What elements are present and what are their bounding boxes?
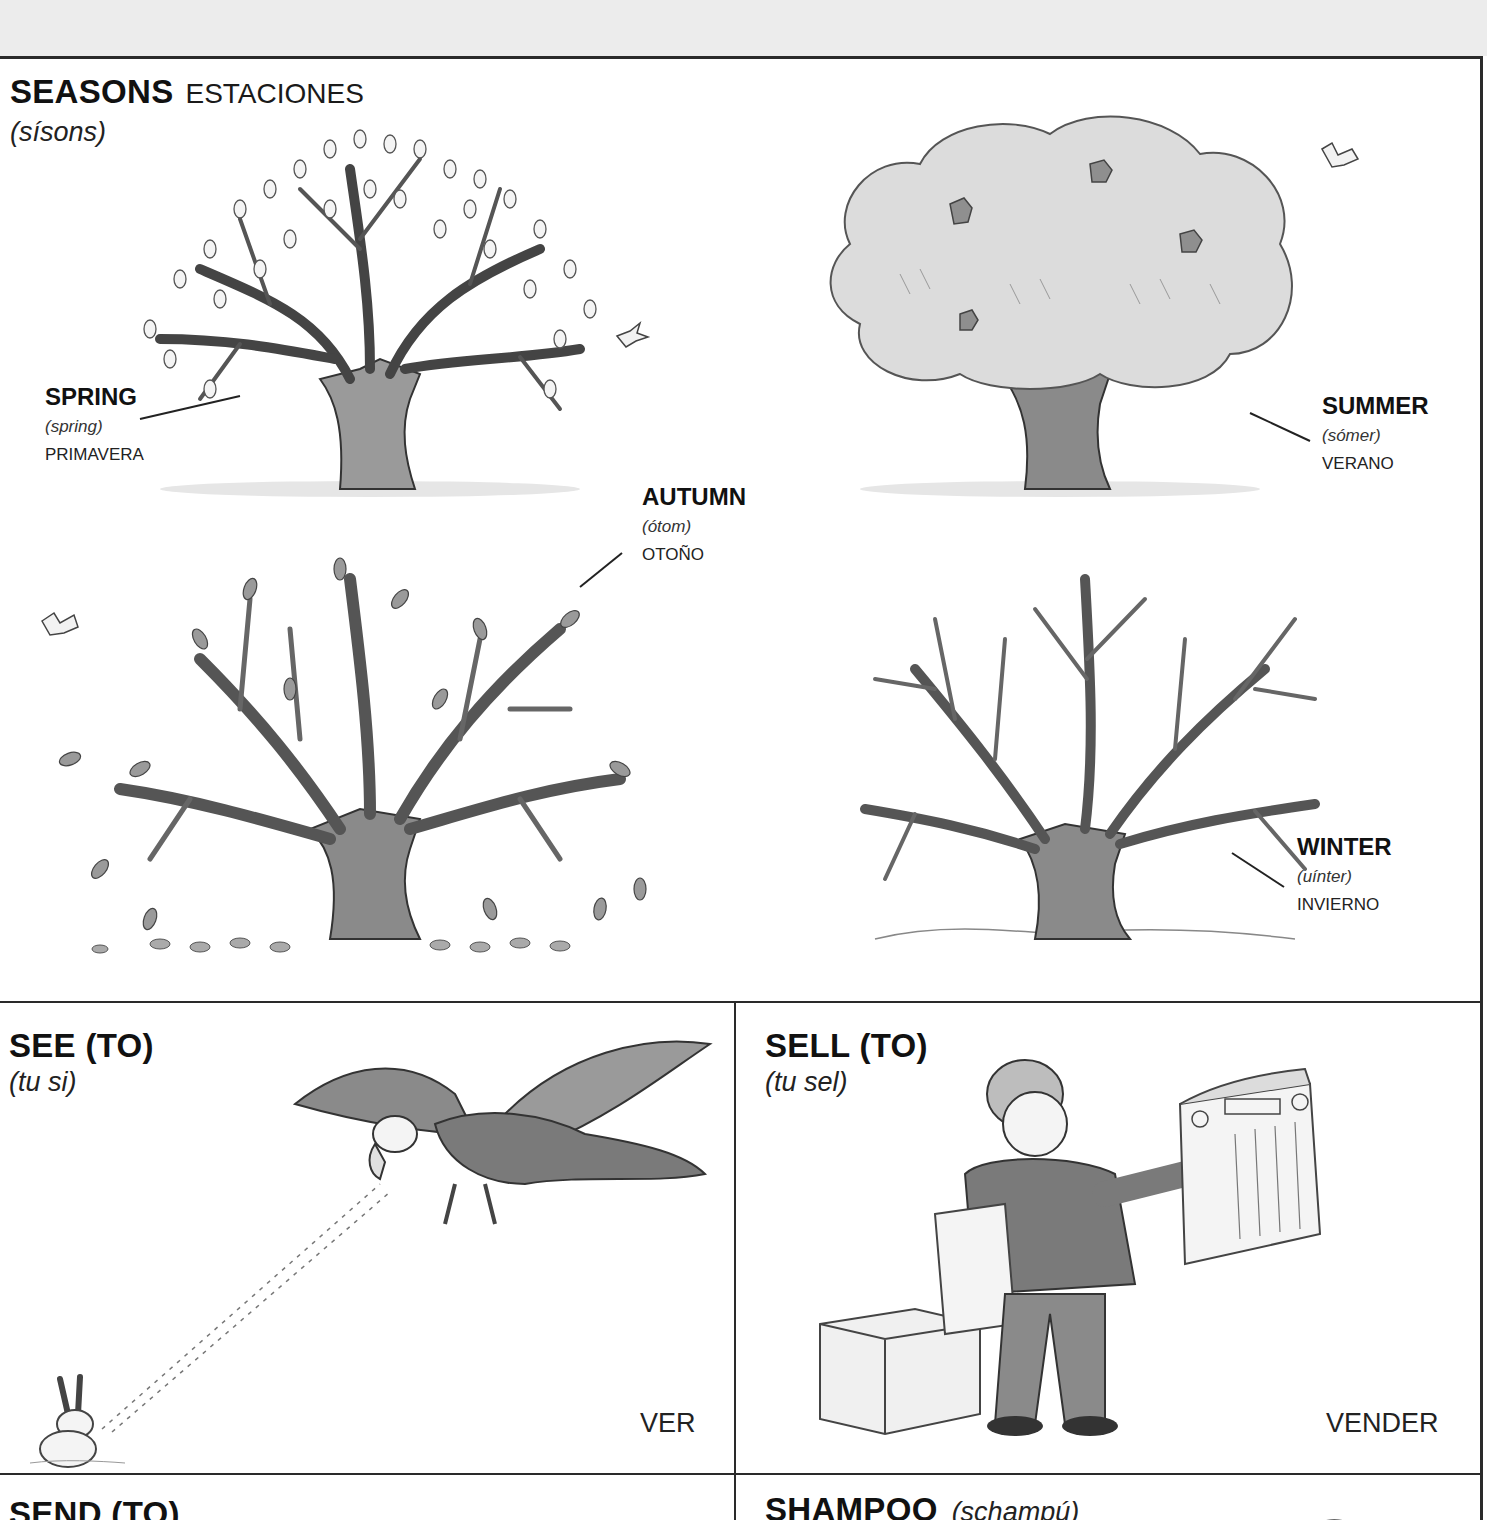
entry-see-term: SEE (TO)	[9, 1027, 154, 1065]
label-autumn: AUTUMN (ótom) OTOÑO	[642, 483, 746, 565]
shampoo-illustration-partial	[1290, 1499, 1470, 1520]
divider-seasons-bottom	[0, 1001, 1480, 1003]
label-spring: SPRING (spring) PRIMAVERA	[45, 383, 144, 465]
newspaper-seller-illustration	[815, 1024, 1335, 1444]
entry-shampoo-pronunciation: (schampú)	[952, 1497, 1080, 1520]
autumn-tree-illustration	[40, 539, 660, 959]
entry-shampoo-term: SHAMPOO	[765, 1491, 938, 1520]
spring-tree-illustration	[120, 99, 620, 499]
seasons-pronunciation: (sísons)	[10, 117, 106, 148]
label-winter: WINTER (uínter) INVIERNO	[1297, 833, 1392, 915]
autumn-leader-line	[578, 549, 628, 589]
sight-line	[100, 1174, 400, 1434]
entry-sell-translation: VENDER	[1326, 1408, 1439, 1439]
divider-vertical	[734, 1002, 736, 1520]
page-top-margin	[0, 0, 1487, 56]
bird-icon	[38, 607, 82, 641]
summer-leader-line	[1240, 409, 1320, 449]
divider-row2-bottom	[0, 1473, 1480, 1475]
bird-icon	[1318, 139, 1362, 173]
entry-see: SEE (TO) (tu si)	[9, 1027, 154, 1098]
entry-shampoo: SHAMPOO(schampú)	[765, 1491, 1079, 1520]
summer-tree-illustration	[810, 94, 1310, 504]
entry-send: SEND (TO)	[9, 1495, 180, 1520]
entry-see-pronunciation: (tu si)	[9, 1067, 154, 1098]
dictionary-page: SEASONSESTACIONES (sísons)	[0, 56, 1483, 1520]
entry-see-translation: VER	[640, 1408, 696, 1439]
spring-leader-line	[140, 394, 250, 424]
label-summer: SUMMER (sómer) VERANO	[1322, 392, 1429, 474]
winter-leader-line	[1230, 851, 1290, 891]
entry-send-term: SEND (TO)	[9, 1495, 180, 1520]
bird-icon	[612, 321, 652, 351]
rabbit-illustration	[20, 1359, 130, 1469]
